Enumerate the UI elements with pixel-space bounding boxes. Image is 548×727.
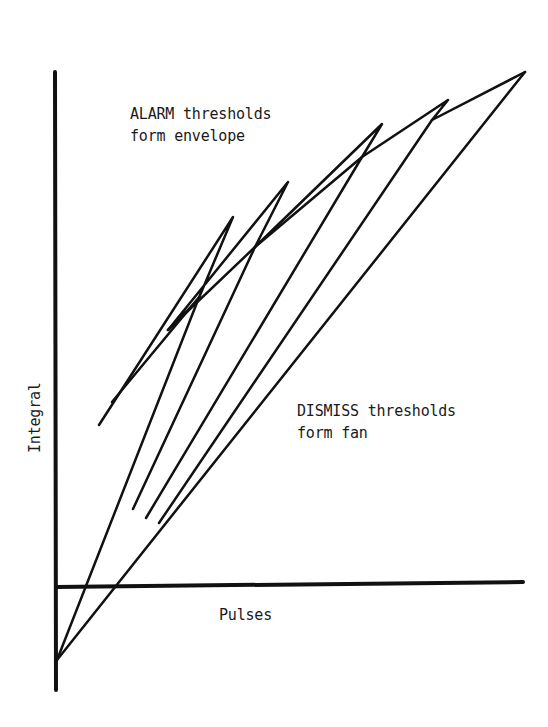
y-axis-label: Integral [25,382,46,453]
threshold-diagram [0,0,548,727]
alarm-label-line1: ALARM thresholds [130,104,271,125]
dismiss-label-line2: form fan [297,423,368,444]
alarm-label-line2: form envelope [130,126,245,147]
x-axis [56,582,523,587]
dismiss-fan [57,72,525,660]
y-axis [55,72,56,690]
dismiss-label-line1: DISMISS thresholds [297,401,456,422]
x-axis-label: Pulses [219,605,272,626]
